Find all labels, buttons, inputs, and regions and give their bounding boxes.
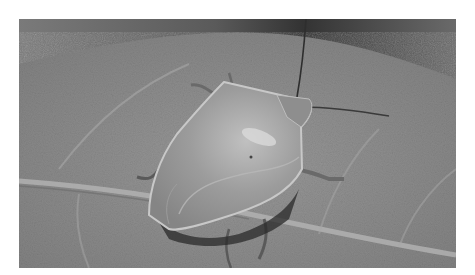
stink-bug-photo bbox=[19, 19, 456, 268]
photo: Grayscale photograph of a shield-shaped … bbox=[19, 19, 456, 268]
